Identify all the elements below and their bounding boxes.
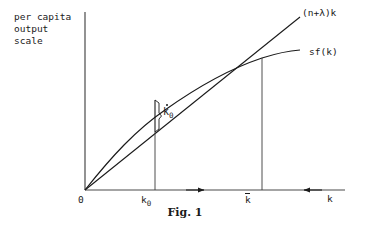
series-label-sf-k: sf(k) [309, 46, 338, 58]
kdot0-base: k [163, 106, 169, 118]
x-axis-label: k [327, 193, 333, 205]
line-n-plus-lambda-k [85, 17, 300, 190]
curve-sf-k [85, 50, 300, 190]
series-label-n-plus-lambda-k: (n+λ)k [302, 7, 336, 19]
kdot0-subscript: 0 [169, 111, 174, 120]
figure-caption: Fig. 1 [0, 206, 370, 219]
y-axis-label: per capita output scale [14, 11, 71, 47]
tick-label-kbar: k [245, 194, 251, 206]
kbar-group: k [245, 194, 251, 206]
kbar-overbar-icon [245, 193, 250, 194]
kdot0-overdot-icon [166, 104, 168, 106]
kdot0-letter: k [163, 106, 169, 117]
kbar-letter: k [245, 194, 251, 205]
figure-container: per capita output scale (n+λ)k sf(k) k0 … [0, 0, 370, 230]
tick-label-origin: 0 [78, 194, 84, 206]
annotation-label-kdot0: k0 [163, 106, 174, 122]
